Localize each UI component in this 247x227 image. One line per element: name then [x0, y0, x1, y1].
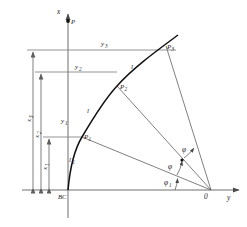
diagram-canvas: x y 0 BC P x 3 x — [0, 0, 247, 227]
figure-diagram: x y 0 BC P x 3 x — [0, 0, 247, 227]
point-p-label: P — [70, 18, 75, 25]
ordinate-sub-y2: 2 — [79, 66, 82, 72]
axis-group — [22, 14, 239, 218]
radial-rays-group — [82, 46, 211, 190]
ray-origin-to-p2 — [117, 86, 211, 190]
abscissa-sub-x3: 3 — [28, 115, 34, 118]
point-sub-p1: 1 — [88, 136, 91, 142]
extension-lines-group — [27, 50, 176, 137]
segment-label-l1: l — [69, 156, 71, 164]
curve-point-labels-group: P 1 P 2 P 3 — [83, 43, 174, 142]
origin-label: 0 — [204, 192, 208, 201]
segment-sub-l1: 1 — [72, 159, 75, 165]
point-sub-p2: 2 — [124, 86, 127, 92]
abscissa-sub-x2: 2 — [36, 131, 42, 134]
angle-arcs-group — [175, 148, 194, 190]
angle-label-phi1: φ — [164, 178, 168, 187]
angle-arc-phi2 — [177, 161, 182, 175]
ray-origin-to-p1 — [82, 137, 211, 190]
x-axis-label: x — [56, 7, 61, 16]
ray-origin-to-p3 — [166, 46, 211, 190]
angle-vertex-dot — [180, 158, 183, 161]
angle-sub-phi1: 1 — [169, 182, 172, 188]
angle-labels-group: φ 1 φ φ — [164, 145, 186, 188]
point-p-marker — [66, 19, 70, 23]
ordinate-sub-y3: 3 — [105, 43, 108, 49]
ordinate-sub-y1: 1 — [65, 120, 68, 126]
segment-label-l2: l — [87, 107, 89, 115]
abscissa-sub-x1: 1 — [44, 163, 50, 166]
primary-curve — [68, 35, 178, 190]
point-sub-p3: 3 — [171, 46, 174, 52]
baseline-label-bc: BC — [58, 193, 67, 200]
angle-label-phi3: φ — [182, 145, 186, 154]
y-axis-label: y — [226, 193, 231, 202]
abscissa-labels-group: x 3 x 2 x 1 — [25, 115, 50, 171]
angle-label-phi2: φ — [168, 162, 172, 171]
ordinate-labels-group: y 3 y 2 y 1 — [60, 40, 108, 126]
segment-label-l3: l — [131, 63, 133, 71]
angle-arc-phi1 — [175, 179, 178, 191]
